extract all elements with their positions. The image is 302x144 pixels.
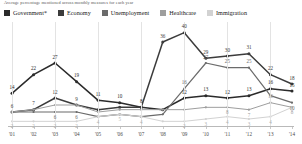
- legend-item-immigration[interactable]: Immigration: [207, 9, 247, 16]
- x-axis-label: '03: [52, 131, 58, 137]
- legend-item-label: Government*: [13, 9, 47, 16]
- data-point-label: 30: [225, 48, 230, 53]
- data-point-label: 16: [182, 80, 187, 85]
- x-axis-label: '01: [9, 131, 15, 137]
- data-point-label: 25: [225, 59, 230, 64]
- x-axis-label: '12: [246, 131, 252, 137]
- data-point-label: 25: [246, 59, 251, 64]
- data-point[interactable]: [205, 118, 207, 120]
- x-axis-label: '05: [95, 131, 101, 137]
- grid-line: [12, 22, 13, 126]
- data-point-label: 7: [248, 113, 251, 118]
- data-point[interactable]: [205, 62, 207, 64]
- data-point-label: 4: [140, 120, 143, 125]
- data-point[interactable]: [76, 104, 78, 106]
- data-point-label: 31: [246, 45, 251, 50]
- grid-line: [141, 22, 142, 126]
- data-point[interactable]: [32, 120, 34, 122]
- legend-item-label: Unemployment: [111, 9, 150, 16]
- data-point[interactable]: [204, 94, 207, 97]
- data-point[interactable]: [162, 113, 164, 115]
- data-point[interactable]: [248, 109, 250, 111]
- x-axis-label: '06: [117, 131, 123, 137]
- legend-item-economy[interactable]: Economy: [58, 9, 91, 16]
- grid-line: [270, 22, 271, 126]
- data-point-label: 13: [203, 87, 208, 92]
- data-point-label: 40: [182, 24, 187, 29]
- data-point-label: 4: [269, 120, 272, 125]
- data-point[interactable]: [162, 120, 164, 122]
- data-point-label: 22: [268, 66, 273, 71]
- legend-swatch-icon: [4, 10, 10, 16]
- data-point-label: 27: [53, 55, 58, 60]
- data-point-label: 6: [75, 115, 78, 120]
- data-point[interactable]: [75, 80, 78, 83]
- data-point-label: 4: [226, 120, 229, 125]
- data-point[interactable]: [205, 106, 207, 108]
- data-point-label: 10: [268, 94, 273, 99]
- data-point-label: 13: [246, 87, 251, 92]
- data-point-label: 5: [118, 118, 121, 123]
- data-point-label: 12: [225, 90, 230, 95]
- data-point-label: 11: [96, 92, 101, 97]
- data-point[interactable]: [32, 111, 34, 113]
- x-axis-label: '02: [30, 131, 36, 137]
- data-point-label: 10: [117, 94, 122, 99]
- x-axis-label: '11: [224, 131, 230, 137]
- x-axis-line: [8, 126, 294, 127]
- chart-subtitle: Average percentage mentioned across mont…: [4, 0, 133, 5]
- data-point-label: 19: [74, 73, 79, 78]
- data-point[interactable]: [118, 106, 121, 109]
- legend-item-government[interactable]: Government*: [4, 9, 47, 16]
- series-line-healthcare: [12, 103, 292, 112]
- data-point[interactable]: [248, 67, 250, 69]
- legend-swatch-icon: [207, 10, 213, 16]
- legend-item-label: Economy: [67, 9, 91, 16]
- x-axis-label: '07: [138, 131, 144, 137]
- legend-swatch-icon: [160, 10, 166, 16]
- data-point-label: 18: [289, 76, 294, 81]
- chart-container: Average percentage mentioned across mont…: [0, 0, 302, 144]
- data-point[interactable]: [247, 52, 250, 55]
- grid-line: [98, 22, 99, 126]
- data-point[interactable]: [118, 101, 121, 104]
- legend-item-unemployment[interactable]: Unemployment: [102, 9, 150, 16]
- data-point[interactable]: [76, 111, 78, 113]
- data-point-label: 2: [54, 125, 57, 130]
- data-point[interactable]: [119, 109, 121, 111]
- data-point-label: 12: [182, 90, 187, 95]
- data-point[interactable]: [247, 94, 250, 97]
- data-point-label: 8: [140, 99, 143, 104]
- legend-swatch-icon: [102, 10, 108, 16]
- data-point-label: 22: [31, 66, 36, 71]
- data-point[interactable]: [32, 109, 34, 111]
- data-point-label: 8: [291, 111, 294, 116]
- plot-area: '01'02'03'04'05'06'07'08'09'10'11'12'13'…: [0, 22, 302, 144]
- legend-item-label: Healthcare: [169, 9, 196, 16]
- data-point-label: 8: [226, 111, 229, 116]
- data-point-label: 2: [32, 125, 35, 130]
- grid-line: [184, 22, 185, 126]
- data-point[interactable]: [162, 109, 164, 111]
- legend-item-healthcare[interactable]: Healthcare: [160, 9, 196, 16]
- data-point-label: 27: [203, 55, 208, 60]
- data-point[interactable]: [32, 73, 35, 76]
- data-point[interactable]: [291, 102, 293, 104]
- x-axis-label: '09: [181, 131, 187, 137]
- data-point[interactable]: [291, 90, 294, 93]
- x-axis-label: '13: [267, 131, 273, 137]
- x-axis-label: '08: [160, 131, 166, 137]
- data-point[interactable]: [161, 41, 164, 44]
- chart-legend: Government*EconomyUnemploymentHealthcare…: [4, 9, 258, 16]
- data-point-label: 36: [160, 34, 165, 39]
- data-point-label: 6: [11, 104, 14, 109]
- data-point-label: 12: [53, 90, 58, 95]
- grid-line: [55, 22, 56, 126]
- x-axis-label: '04: [74, 131, 80, 137]
- legend-item-label: Immigration: [216, 9, 247, 16]
- data-point-label: 16: [268, 80, 273, 85]
- data-point[interactable]: [119, 113, 121, 115]
- data-point-label: 9: [75, 97, 78, 102]
- data-point-label: 3: [248, 122, 251, 127]
- x-axis-label: '10: [203, 131, 209, 137]
